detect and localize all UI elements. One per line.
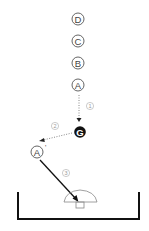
step-3-badge: 3	[62, 169, 69, 176]
goal-g: G	[74, 126, 86, 138]
node-d: D	[72, 13, 84, 25]
node-label: D	[75, 14, 82, 25]
node-a: A	[72, 79, 84, 91]
step-1-badge: 1	[86, 102, 93, 109]
arrowhead-icon	[77, 118, 82, 122]
step-label: 2	[53, 123, 56, 129]
goal-label: G	[76, 127, 83, 138]
step-2-arrow	[43, 133, 72, 140]
step-label: 3	[64, 170, 67, 176]
step-label: 1	[88, 103, 91, 109]
node-label: A	[75, 80, 82, 91]
node-a-prime: A '	[31, 144, 46, 158]
prime-mark: '	[45, 144, 46, 151]
step-3-arrow	[40, 160, 76, 199]
diagram-canvas: D C B A 1 G 2 A ' 3	[0, 0, 149, 231]
container-outline	[18, 192, 139, 219]
mushroom-stool-icon	[64, 190, 97, 208]
node-label: C	[75, 36, 82, 47]
node-label: A	[34, 147, 41, 158]
node-label: B	[75, 58, 81, 69]
node-b: B	[72, 57, 84, 69]
step-2-badge: 2	[51, 122, 58, 129]
arrowhead-icon	[39, 138, 45, 142]
node-c: C	[72, 35, 84, 47]
